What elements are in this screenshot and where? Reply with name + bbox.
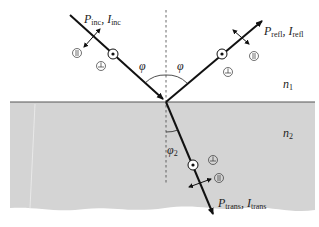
transmitted-label: Ptrans, Itrans bbox=[218, 197, 266, 211]
n1-label: n1 bbox=[283, 78, 293, 92]
phi-reflected-label: φ bbox=[177, 60, 184, 72]
phi-incident-label: φ bbox=[139, 60, 146, 72]
n2-label: n2 bbox=[283, 127, 293, 141]
phi2-label: φ2 bbox=[167, 144, 178, 158]
reflected-label: Prefl, Irefl bbox=[264, 25, 304, 39]
perp-polarization-icon-transmitted bbox=[188, 160, 198, 170]
refraction-diagram: Pinc, Iinc Prefl, Irefl Ptrans, Itrans n… bbox=[0, 0, 319, 227]
medium-2-region bbox=[10, 102, 315, 211]
perp-polarization-icon-incident bbox=[108, 49, 118, 59]
incident-label: Pinc, Iinc bbox=[84, 13, 121, 27]
perp-polarization-icon-reflected bbox=[217, 49, 227, 59]
